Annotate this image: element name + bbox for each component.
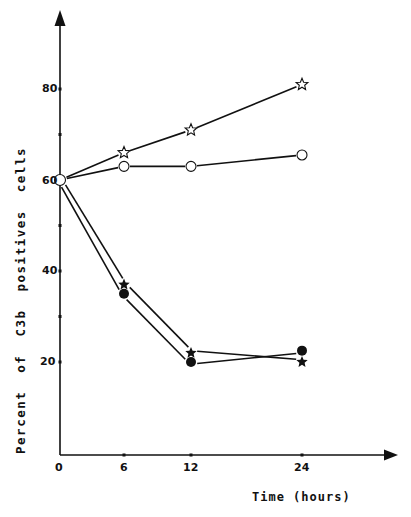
y-tick-mark [59, 88, 62, 91]
ticks [59, 88, 304, 457]
y-tick-mark [59, 315, 62, 318]
filled-star-marker-icon [296, 356, 307, 367]
series-line-open-star [130, 132, 186, 151]
series-line-open-star [197, 87, 297, 128]
filled-circle-marker-icon [186, 357, 196, 367]
series-line-filled-star [66, 185, 123, 279]
x-tick-label-6: 6 [120, 461, 128, 474]
x-tick-mark [123, 454, 126, 457]
axes [60, 22, 392, 455]
x-axis-title: Time (hours) [252, 490, 351, 504]
open-circle-marker-icon [186, 161, 196, 171]
y-tick-label-20: 20 [40, 355, 55, 368]
open-star-marker-icon [296, 78, 308, 89]
y-tick-mark [59, 361, 62, 364]
y-axis-title: Percent of C3b positives cells [2, 140, 38, 460]
x-tick-label-12: 12 [183, 461, 198, 474]
chart-canvas [0, 0, 411, 517]
series-lines [62, 87, 297, 364]
y-tick-label-80: 80 [42, 82, 57, 95]
series-markers [55, 78, 308, 367]
open-circle-marker-icon [119, 161, 129, 171]
x-tick-label-0: 0 [55, 461, 63, 474]
x-tick-mark [301, 454, 304, 457]
open-star-marker-icon [118, 147, 130, 158]
series-line-open-circle [197, 156, 296, 166]
y-tick-mark [59, 270, 62, 273]
series-line-open-star [66, 155, 118, 177]
filled-star-marker-icon [185, 347, 196, 358]
x-axis-arrow-icon [384, 450, 398, 461]
x-tick-label-24: 24 [294, 461, 309, 474]
filled-star-marker-icon [118, 279, 129, 290]
series-line-filled-circle [62, 187, 120, 289]
open-star-marker-icon [185, 124, 197, 135]
y-axis-title-text: Percent of C3b positives cells [13, 147, 28, 454]
filled-circle-marker-icon [297, 346, 307, 356]
y-tick-mark [59, 133, 62, 136]
y-axis-arrow-icon [55, 10, 66, 26]
open-circle-marker-icon [297, 150, 307, 160]
series-line-filled-circle [127, 300, 186, 360]
series-line-filled-star [130, 287, 189, 347]
filled-circle-marker-icon [119, 289, 129, 299]
y-tick-mark [59, 224, 62, 227]
x-tick-mark [190, 454, 193, 457]
y-tick-label-60: 60 [42, 174, 57, 187]
y-tick-label-40: 40 [42, 264, 57, 277]
